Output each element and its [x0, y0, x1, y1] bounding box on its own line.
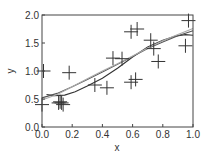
- y-tick-label: 0.5: [25, 94, 39, 105]
- y-tick-label: 2.0: [25, 10, 39, 21]
- plot-frame: [42, 15, 193, 127]
- data-point-plus-marker: [55, 96, 69, 110]
- data-point-plus-marker: [151, 54, 165, 68]
- data-point-plus-marker: [53, 95, 67, 109]
- y-tick-label: 1.0: [25, 66, 39, 77]
- y-axis-label: y: [5, 69, 16, 74]
- data-point-plus-marker: [100, 81, 114, 95]
- scatter-chart: 0.00.20.40.60.81.0 0.00.51.01.52.0 x y: [0, 0, 210, 161]
- x-axis-ticks: 0.00.20.40.60.81.0: [35, 124, 200, 140]
- data-points: [35, 14, 195, 112]
- x-tick-label: 0.8: [156, 129, 170, 140]
- data-point-plus-marker: [62, 66, 76, 80]
- x-tick-label: 1.0: [186, 129, 200, 140]
- fit-wavy-curve: [47, 35, 194, 96]
- data-point-plus-marker: [130, 22, 144, 36]
- x-tick-label: 0.2: [65, 129, 79, 140]
- data-point-plus-marker: [124, 25, 138, 39]
- fit-curves: [42, 28, 193, 100]
- x-tick-label: 0.6: [126, 129, 140, 140]
- data-point-plus-marker: [178, 39, 192, 53]
- x-axis-label: x: [115, 142, 120, 153]
- y-tick-label: 0.0: [25, 122, 39, 133]
- y-tick-label: 1.5: [25, 38, 39, 49]
- x-tick-label: 0.4: [95, 129, 109, 140]
